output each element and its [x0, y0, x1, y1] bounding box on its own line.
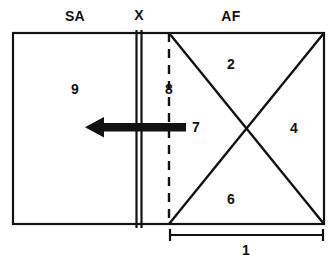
number-2: 2 — [227, 56, 235, 72]
number-7: 7 — [192, 119, 200, 135]
sa-label: SA — [65, 8, 85, 24]
arrow-shaft — [100, 123, 186, 132]
number-6: 6 — [227, 191, 235, 207]
number-8: 8 — [165, 81, 173, 97]
dimension-bracket — [169, 229, 324, 241]
technical-diagram: SA X AF 9 8 2 4 6 7 1 — [0, 0, 332, 263]
diagram-canvas — [0, 0, 332, 263]
x-label: X — [134, 7, 144, 23]
number-4: 4 — [290, 120, 298, 136]
number-9: 9 — [71, 81, 79, 97]
af-label: AF — [221, 8, 240, 24]
number-1: 1 — [242, 242, 250, 258]
